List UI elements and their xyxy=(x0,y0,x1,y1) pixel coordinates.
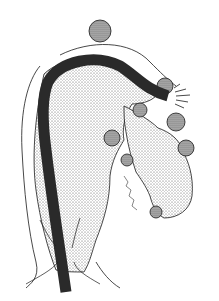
artist-signature xyxy=(124,176,137,210)
medical-illustration xyxy=(0,0,219,301)
endoscope-tip-spray xyxy=(174,84,190,108)
